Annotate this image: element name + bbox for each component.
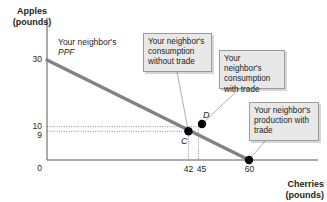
- callout-consumption-with-trade: Your neighbor's consumption with trade: [219, 50, 285, 89]
- y-axis-title: Apples (pounds): [2, 6, 62, 27]
- ppf-curve-label-line2: PPF: [58, 47, 117, 57]
- x-axis-title: Cherries (pounds): [254, 179, 324, 200]
- point-c-marker: [184, 127, 192, 135]
- point-d-label: D: [203, 111, 210, 120]
- chart-canvas: [0, 0, 327, 202]
- leader-without-trade: [177, 72, 188, 131]
- y-axis-title-line1: Apples: [2, 6, 62, 17]
- point-c-label: C: [181, 137, 188, 146]
- x-axis-title-line1: Cherries: [254, 179, 324, 190]
- ppf-chart-figure: Apples (pounds) Cherries (pounds) 30 10 …: [0, 0, 327, 202]
- point-d-marker: [198, 120, 206, 128]
- x-tick-45: 45: [191, 165, 212, 174]
- ppf-curve-label-line1: Your neighbor's: [58, 37, 117, 47]
- callout-production-with-trade: Your neighbor's production with trade: [249, 102, 319, 141]
- callout-consumption-without-trade: Your neighbor's consumption without trad…: [143, 33, 212, 72]
- x-axis-title-line2: (pounds): [254, 190, 324, 201]
- y-tick-30: 30: [20, 55, 42, 64]
- y-axis-title-line2: (pounds): [2, 17, 62, 28]
- ppf-curve-label: Your neighbor's PPF: [58, 37, 117, 57]
- x-tick-60: 60: [239, 165, 260, 174]
- y-tick-0: 0: [20, 164, 42, 173]
- point-production-marker: [245, 156, 253, 164]
- y-tick-9: 9: [20, 131, 42, 140]
